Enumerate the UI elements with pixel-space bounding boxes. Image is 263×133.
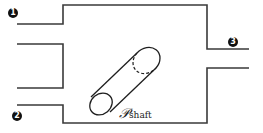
shaft-power-symbol: 𝒫 [119,105,129,121]
wall-outline-upper [17,5,249,49]
inlet-1-marker: 1 [8,8,18,18]
shaft-power-label: 𝒫shaft [119,103,152,122]
outlet-3-marker: 3 [228,37,238,47]
inlet-2-marker: 2 [12,111,22,121]
wall-outline-lower [17,44,63,88]
shaft-power-subscript: shaft [129,110,152,120]
